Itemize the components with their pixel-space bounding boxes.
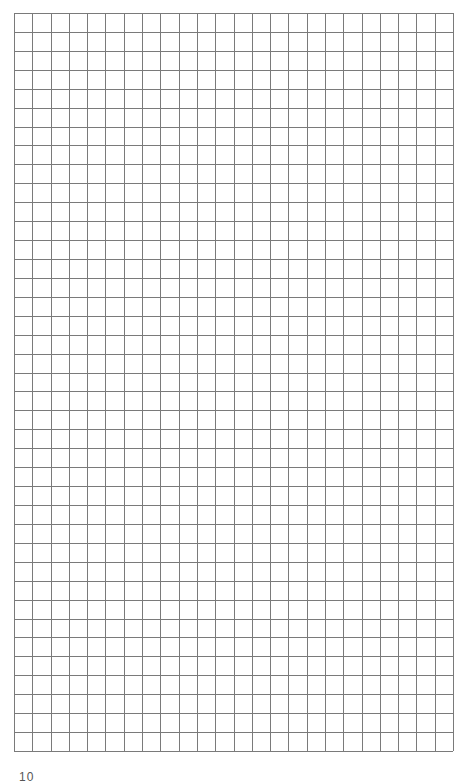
grid-lines [14,13,453,751]
grid [14,13,453,751]
page-number: 10 [19,771,34,783]
graph-paper-page: 10 [0,0,468,784]
